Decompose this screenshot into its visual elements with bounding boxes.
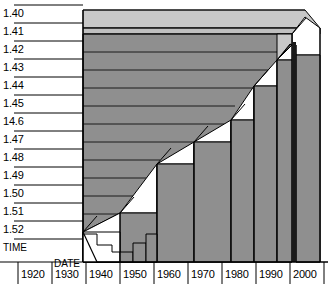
x-tick-label-1: 1930 (55, 269, 79, 280)
y-tick-label-7: 1.47 (3, 134, 24, 145)
chart-root: 1.40 1.41 1.42 1.43 1.44 1.45 14.6 1.47 … (0, 0, 328, 286)
y-tick-label-2: 1.42 (3, 44, 24, 55)
y-tick-label-9: 1.49 (3, 170, 24, 181)
y-tick-lines (14, 5, 83, 239)
y-tick-label-6: 14.6 (3, 116, 24, 127)
x-tick-label-7: 1990 (259, 269, 283, 280)
y-tick-label-3: 1.43 (3, 62, 24, 73)
decade-divider-1990 (292, 42, 296, 262)
x-tick-label-5: 1970 (191, 269, 215, 280)
x-tick-label-3: 1950 (123, 269, 147, 280)
y-tick-label-5: 1.45 (3, 98, 24, 109)
y-tick-label-11: 1.51 (3, 206, 24, 217)
block-top-face (83, 10, 320, 28)
x-tick-label-6: 1980 (225, 269, 249, 280)
y-tick-label-4: 1.44 (3, 80, 24, 91)
y-axis-title: TIME (3, 242, 27, 253)
y-tick-label-8: 1.48 (3, 152, 24, 163)
block-top-band (83, 28, 320, 34)
y-tick-label-10: 1.50 (3, 188, 24, 199)
x-tick-label-8: 2000 (293, 269, 317, 280)
y-tick-label-12: 1.52 (3, 224, 24, 235)
y-tick-label-0: 1.40 (3, 8, 24, 19)
x-tick-label-2: 1940 (89, 269, 113, 280)
y-tick-label-1: 1.41 (3, 26, 24, 37)
x-tick-label-0: 1920 (21, 269, 45, 280)
x-tick-label-4: 1960 (157, 269, 181, 280)
stepped-area-chart (0, 0, 328, 286)
